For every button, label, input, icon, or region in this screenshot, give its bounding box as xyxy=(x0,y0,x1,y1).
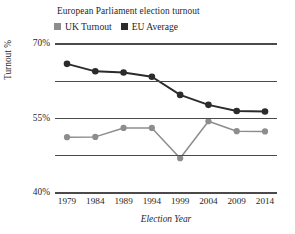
x-axis-tick-label: 1984 xyxy=(86,196,104,206)
gridline: 10% xyxy=(55,192,277,193)
gridline: 40% xyxy=(55,118,277,119)
legend-item-uk-turnout[interactable]: UK Turnout xyxy=(54,21,112,32)
legend-swatch-uk-turnout xyxy=(54,23,61,30)
legend-swatch-eu-average xyxy=(121,23,128,30)
x-axis-tick-label: 2009 xyxy=(228,196,246,206)
gridline: 70% xyxy=(55,43,277,44)
data-point[interactable] xyxy=(205,102,212,109)
chart-title: European Parliament election turnout xyxy=(57,6,200,16)
gridline: 25% xyxy=(55,155,277,156)
data-point[interactable] xyxy=(120,69,127,76)
legend-label-eu-average: EU Average xyxy=(132,21,178,32)
data-point[interactable] xyxy=(149,73,156,80)
data-point[interactable] xyxy=(234,128,240,134)
data-point[interactable] xyxy=(262,128,268,134)
data-point[interactable] xyxy=(120,125,126,131)
x-axis-tick-label: 2004 xyxy=(199,196,217,206)
data-point[interactable] xyxy=(262,108,269,115)
data-point[interactable] xyxy=(92,134,98,140)
data-point[interactable] xyxy=(233,108,240,115)
data-point[interactable] xyxy=(64,61,71,68)
data-point[interactable] xyxy=(177,92,184,99)
legend-item-eu-average[interactable]: EU Average xyxy=(121,21,178,32)
x-axis-tick-label: 1994 xyxy=(143,196,161,206)
gridline: 55% xyxy=(55,81,277,82)
legend-label-uk-turnout: UK Turnout xyxy=(65,21,112,32)
series-line-uk-turnout xyxy=(67,121,265,158)
y-axis-tick-label: 70% xyxy=(33,38,50,48)
chart-legend: UK Turnout EU Average xyxy=(54,21,178,32)
y-axis-tick-label: 40% xyxy=(33,187,50,197)
x-axis-tick-label: 1989 xyxy=(114,196,132,206)
x-axis-tick-label: 1999 xyxy=(171,196,189,206)
x-axis-tick-label: 2014 xyxy=(256,196,274,206)
y-axis-tick-label: 55% xyxy=(33,113,50,123)
x-axis-label: Election Year xyxy=(55,214,277,224)
data-point[interactable] xyxy=(64,134,70,140)
data-point[interactable] xyxy=(92,68,99,75)
x-axis-tick-label: 1979 xyxy=(58,196,76,206)
chart-container: European Parliament election turnout UK … xyxy=(0,0,295,234)
data-point[interactable] xyxy=(149,125,155,131)
y-axis-label: Turnout % xyxy=(3,40,13,80)
plot-area: Election Year 10%25%40%55%70%19791984198… xyxy=(55,44,277,193)
